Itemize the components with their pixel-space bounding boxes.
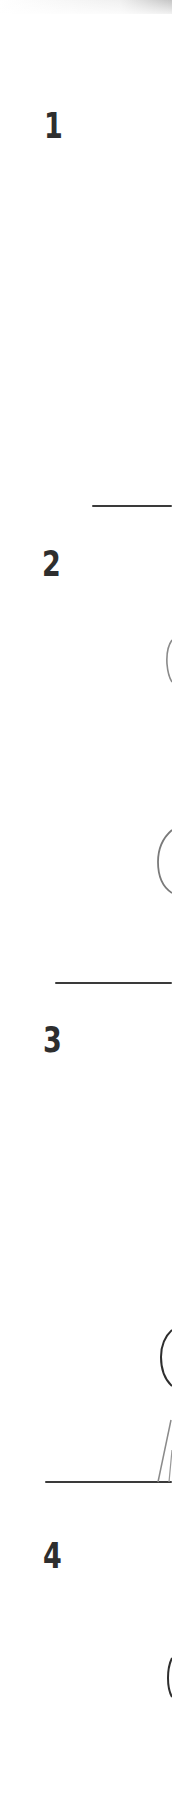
- circle-arc-icon: [158, 830, 172, 893]
- worksheet-page: 1 2 3 4: [0, 0, 172, 1809]
- circle-arc-icon: [168, 1658, 172, 1697]
- slanted-line-icon: [158, 1420, 171, 1482]
- circle-arc-icon: [167, 640, 172, 682]
- circle-arc-icon: [161, 1330, 172, 1386]
- slanted-line-icon: [169, 1450, 172, 1482]
- sketch-layer: [0, 0, 172, 1809]
